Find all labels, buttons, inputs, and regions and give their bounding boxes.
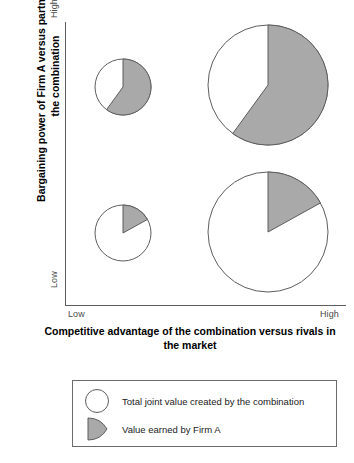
legend-label-total-value: Total joint value created by the combina… [122,396,304,407]
legend-box: Total joint value created by the combina… [72,380,337,447]
pie-marker [95,205,151,261]
legend-label-firm-value: Value earned by Firm A [122,424,221,435]
legend-item-total-value: Total joint value created by the combina… [84,388,304,414]
pie-marker [95,59,151,115]
pie-marker [208,25,328,145]
chart-plot-area: High Low Low High Bargaining power of Fi… [0,0,354,360]
legend-item-firm-value: Value earned by Firm A [84,416,221,442]
open-circle-icon [84,388,110,414]
pie-marker [208,172,328,292]
grey-wedge-icon [84,416,110,442]
pie-marker-layer [0,0,354,360]
